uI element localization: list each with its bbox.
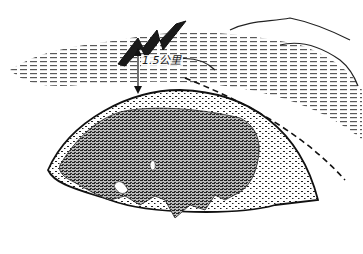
height-label: 1.5公里: [141, 55, 183, 67]
globe-drawing: [0, 0, 363, 254]
illustration: 1.5公里: [0, 0, 363, 254]
